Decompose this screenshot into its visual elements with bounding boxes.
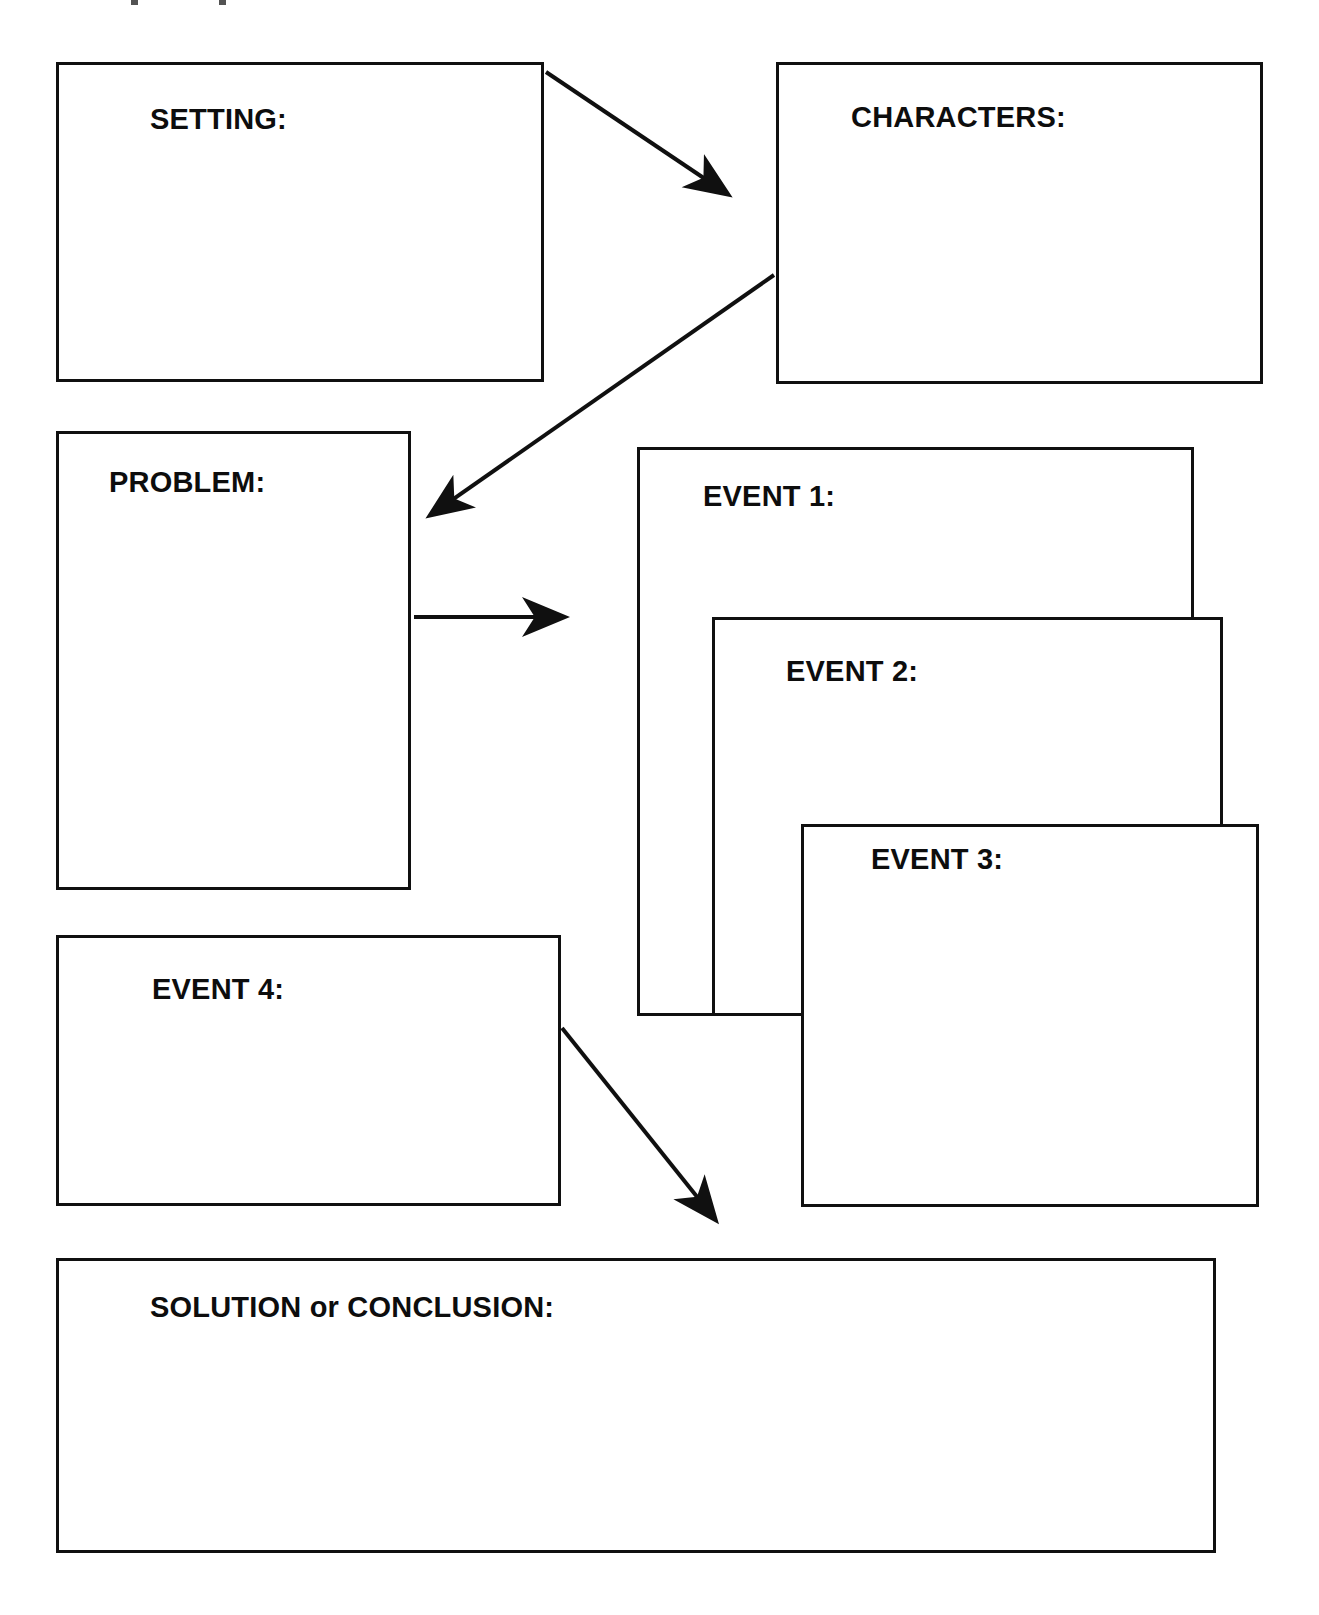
setting-box[interactable]: [56, 62, 544, 382]
solution-label: SOLUTION or CONCLUSION:: [150, 1293, 554, 1322]
event1-label: EVENT 1:: [703, 482, 835, 511]
setting-label: SETTING:: [150, 105, 287, 134]
scan-artifact-left: [131, 0, 138, 5]
event4-box[interactable]: [56, 935, 561, 1206]
arrow-event4-to-solution: [562, 1028, 714, 1218]
event3-box[interactable]: [801, 824, 1259, 1207]
characters-label: CHARACTERS:: [851, 103, 1066, 132]
graphic-organizer-page: SETTING: CHARACTERS: PROBLEM: EVENT 1: E…: [0, 0, 1319, 1615]
problem-label: PROBLEM:: [109, 468, 265, 497]
event2-label: EVENT 2:: [786, 657, 918, 686]
arrow-setting-to-characters: [546, 72, 726, 193]
scan-artifact-right: [219, 0, 226, 5]
event3-label: EVENT 3:: [871, 845, 1003, 874]
problem-box[interactable]: [56, 431, 411, 890]
event4-label: EVENT 4:: [152, 975, 284, 1004]
